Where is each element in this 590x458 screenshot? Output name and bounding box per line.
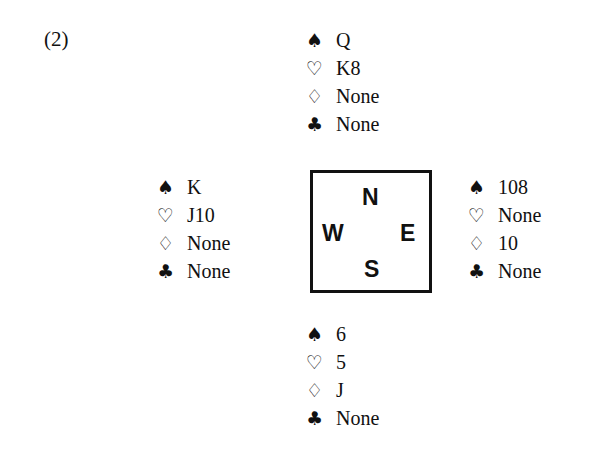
diamond-icon: ♢ (468, 229, 498, 257)
spade-icon: ♠ (157, 173, 187, 201)
spade-icon: ♠ (468, 173, 498, 201)
west-spades-cards: K (187, 173, 201, 201)
east-diamonds-row: ♢ 10 (468, 229, 541, 257)
south-spades-row: ♠ 6 (306, 320, 379, 348)
west-hearts-row: ♡ J10 (157, 201, 230, 229)
west-hand: ♠ K ♡ J10 ♢ None ♣ None (157, 173, 230, 285)
club-icon: ♣ (468, 257, 498, 285)
south-diamonds-row: ♢ J (306, 376, 379, 404)
east-spades-row: ♠ 108 (468, 173, 541, 201)
spade-icon: ♠ (306, 320, 336, 348)
north-clubs-row: ♣ None (306, 110, 379, 138)
east-diamonds-cards: 10 (498, 229, 518, 257)
compass-box: N W E S (310, 170, 432, 293)
compass-west-label: W (322, 222, 344, 245)
north-diamonds-cards: None (336, 82, 379, 110)
east-spades-cards: 108 (498, 173, 528, 201)
south-clubs-cards: None (336, 404, 379, 432)
north-clubs-cards: None (336, 110, 379, 138)
south-spades-cards: 6 (336, 320, 346, 348)
compass-south-label: S (364, 258, 379, 281)
east-hearts-cards: None (498, 201, 541, 229)
east-clubs-row: ♣ None (468, 257, 541, 285)
compass-east-label: E (400, 222, 415, 245)
east-clubs-cards: None (498, 257, 541, 285)
north-spades-cards: Q (336, 26, 350, 54)
north-spades-row: ♠ Q (306, 26, 379, 54)
west-spades-row: ♠ K (157, 173, 230, 201)
west-clubs-cards: None (187, 257, 230, 285)
south-diamonds-cards: J (336, 376, 344, 404)
heart-icon: ♡ (306, 348, 336, 376)
club-icon: ♣ (157, 257, 187, 285)
south-hearts-cards: 5 (336, 348, 346, 376)
compass-north-label: N (362, 186, 379, 209)
south-clubs-row: ♣ None (306, 404, 379, 432)
spade-icon: ♠ (306, 26, 336, 54)
west-clubs-row: ♣ None (157, 257, 230, 285)
north-hearts-cards: K8 (336, 54, 360, 82)
problem-number: (2) (44, 27, 69, 51)
west-diamonds-cards: None (187, 229, 230, 257)
club-icon: ♣ (306, 110, 336, 138)
north-hand: ♠ Q ♡ K8 ♢ None ♣ None (306, 26, 379, 138)
north-diamonds-row: ♢ None (306, 82, 379, 110)
diamond-icon: ♢ (306, 82, 336, 110)
diamond-icon: ♢ (157, 229, 187, 257)
east-hand: ♠ 108 ♡ None ♢ 10 ♣ None (468, 173, 541, 285)
diamond-icon: ♢ (306, 376, 336, 404)
club-icon: ♣ (306, 404, 336, 432)
east-hearts-row: ♡ None (468, 201, 541, 229)
south-hand: ♠ 6 ♡ 5 ♢ J ♣ None (306, 320, 379, 432)
west-hearts-cards: J10 (187, 201, 215, 229)
heart-icon: ♡ (157, 201, 187, 229)
south-hearts-row: ♡ 5 (306, 348, 379, 376)
north-hearts-row: ♡ K8 (306, 54, 379, 82)
heart-icon: ♡ (306, 54, 336, 82)
heart-icon: ♡ (468, 201, 498, 229)
west-diamonds-row: ♢ None (157, 229, 230, 257)
